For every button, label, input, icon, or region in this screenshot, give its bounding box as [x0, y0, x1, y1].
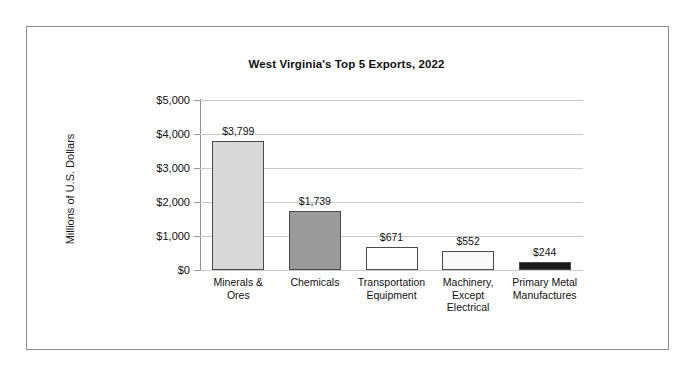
- y-axis-tick-labels: $5,000$4,000$3,000$2,000$1,000$0: [100, 0, 190, 374]
- x-axis-category-label: Primary MetalManufactures: [512, 276, 577, 301]
- x-axis-category-label: Minerals &Ores: [213, 276, 263, 301]
- category-label-line: Minerals &: [213, 276, 263, 289]
- bar: [519, 262, 571, 270]
- y-axis-tick-label: $3,000: [104, 162, 190, 174]
- category-label-line: Chemicals: [290, 276, 339, 289]
- bar: [212, 141, 264, 270]
- y-axis-tick: [194, 270, 200, 271]
- plot-area: [200, 100, 583, 270]
- category-label-line: Electrical: [443, 301, 494, 314]
- gridline: [200, 134, 583, 135]
- y-axis-title: Millions of U.S. Dollars: [64, 99, 76, 279]
- bar: [289, 211, 341, 270]
- gridline: [200, 270, 583, 271]
- y-axis-tick-label: $1,000: [104, 230, 190, 242]
- y-axis-tick: [194, 134, 200, 135]
- category-label-line: Primary Metal: [512, 276, 577, 289]
- gridline: [200, 100, 583, 101]
- y-axis-tick: [194, 100, 200, 101]
- category-label-line: Machinery,: [443, 276, 494, 289]
- y-axis-tick: [194, 202, 200, 203]
- y-axis-tick: [194, 236, 200, 237]
- bar-value-label: $671: [380, 231, 403, 243]
- bar: [442, 251, 494, 270]
- bar-value-label: $552: [456, 235, 479, 247]
- bar: [366, 247, 418, 270]
- chart-page: West Virginia's Top 5 Exports, 2022 Mill…: [0, 0, 693, 374]
- category-label-line: Equipment: [358, 289, 425, 302]
- x-axis-category-label: TransportationEquipment: [358, 276, 425, 301]
- y-axis-tick-label: $2,000: [104, 196, 190, 208]
- category-label-line: Manufactures: [512, 289, 577, 302]
- bar-value-label: $244: [533, 246, 556, 258]
- y-axis-tick: [194, 168, 200, 169]
- y-axis-tick-label: $0: [104, 264, 190, 276]
- category-label-line: Except: [443, 289, 494, 302]
- category-label-line: Ores: [213, 289, 263, 302]
- y-axis-tick-label: $4,000: [104, 128, 190, 140]
- x-axis-category-label: Chemicals: [290, 276, 339, 289]
- bar-value-label: $3,799: [222, 125, 254, 137]
- bar-value-label: $1,739: [299, 195, 331, 207]
- x-axis-category-label: Machinery,ExceptElectrical: [443, 276, 494, 314]
- category-label-line: Transportation: [358, 276, 425, 289]
- y-axis-tick-label: $5,000: [104, 94, 190, 106]
